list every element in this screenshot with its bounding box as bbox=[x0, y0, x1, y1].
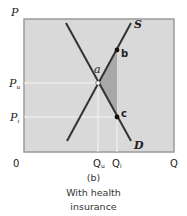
y-axis-label: P bbox=[10, 6, 19, 19]
demand-label: D bbox=[133, 139, 144, 152]
point-c bbox=[115, 115, 120, 120]
supply-label: S bbox=[134, 18, 142, 31]
supply-demand-chart: P 0 Q Pu Pi Qu Qi S D a b c bbox=[0, 0, 187, 216]
point-b bbox=[115, 48, 120, 53]
point-b-label: b bbox=[121, 48, 128, 59]
caption-line-1: With health bbox=[0, 187, 187, 198]
pu-label: Pu bbox=[8, 77, 20, 90]
origin-label: 0 bbox=[13, 158, 19, 169]
plot-area bbox=[24, 19, 174, 152]
qi-label: Qi bbox=[112, 158, 122, 169]
x-axis-label: Q bbox=[170, 158, 178, 169]
caption-line-2: insurance bbox=[0, 201, 187, 212]
point-a-label: a bbox=[94, 63, 101, 76]
point-a bbox=[96, 81, 100, 85]
panel-label: (b) bbox=[0, 172, 187, 183]
pi-label: Pi bbox=[9, 111, 19, 124]
point-c-label: c bbox=[121, 108, 127, 119]
qu-label: Qu bbox=[93, 158, 105, 169]
